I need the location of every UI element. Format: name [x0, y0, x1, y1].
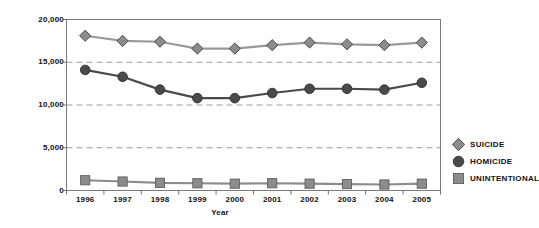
square-marker-icon	[452, 172, 465, 185]
x-axis-ticks	[67, 191, 441, 195]
x-tick-label: 2005	[400, 195, 444, 204]
diamond-marker-icon	[452, 138, 465, 151]
x-axis-tick-labels: 1996199719981999200020012002200320042005	[0, 195, 532, 209]
data-series	[80, 30, 428, 189]
legend-item[interactable]: UNINTENTIONAL	[452, 170, 532, 187]
chart-legend: SUICIDEHOMICIDEUNINTENTIONAL	[452, 136, 532, 187]
legend-label: SUICIDE	[470, 140, 505, 149]
legend-label: UNINTENTIONAL	[470, 174, 539, 183]
legend-item[interactable]: SUICIDE	[452, 136, 532, 153]
x-axis-title: Year	[0, 208, 440, 217]
legend-item[interactable]: HOMICIDE	[452, 153, 532, 170]
circle-marker-icon	[452, 155, 465, 168]
legend-label: HOMICIDE	[470, 157, 512, 166]
